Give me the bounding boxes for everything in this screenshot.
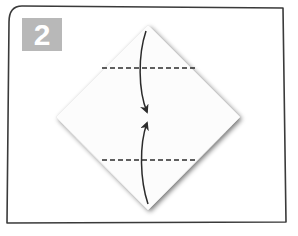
step-number-badge: 2	[22, 18, 62, 51]
